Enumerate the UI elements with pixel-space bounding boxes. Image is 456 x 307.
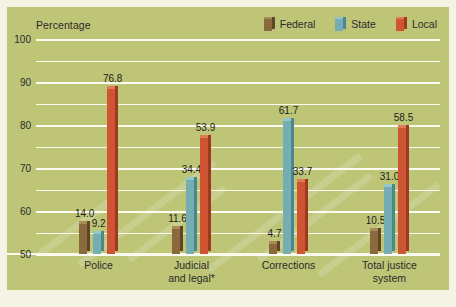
bar-value-label: 9.2 bbox=[92, 218, 106, 229]
bar-group: 11.634.453.9 bbox=[172, 39, 211, 254]
bar-local[interactable]: 76.8 bbox=[107, 89, 118, 254]
gridline: 0 bbox=[36, 254, 440, 256]
bar-federal[interactable]: 11.6 bbox=[172, 229, 183, 254]
legend-label-federal: Federal bbox=[280, 18, 316, 30]
legend-swatch-federal-icon bbox=[264, 17, 275, 31]
y-axis-tick-label: 60 bbox=[20, 206, 31, 217]
x-axis-category-label: Total justicesystem bbox=[330, 259, 450, 284]
bar-group: 14.09.276.8 bbox=[79, 39, 118, 254]
legend-label-state: State bbox=[351, 18, 376, 30]
y-axis-tick-label: 80 bbox=[20, 120, 31, 131]
bar-state[interactable]: 9.2 bbox=[93, 234, 104, 254]
chart-container: Percentage Federal State bbox=[0, 0, 456, 307]
bar-value-label: 33.7 bbox=[293, 166, 312, 177]
bar-value-label: 34.4 bbox=[182, 164, 201, 175]
y-axis-tick-label: 50 bbox=[20, 249, 31, 260]
bar-value-label: 10.5 bbox=[366, 215, 385, 226]
chart-legend: Federal State Local bbox=[264, 17, 437, 31]
bar-group: 4.761.733.7 bbox=[269, 39, 308, 254]
legend-item-state[interactable]: State bbox=[335, 17, 376, 31]
chart-panel: Percentage Federal State bbox=[7, 7, 449, 290]
bar-value-label: 58.5 bbox=[394, 112, 413, 123]
y-axis-tick-label: 100 bbox=[14, 34, 31, 45]
bar-state[interactable]: 61.7 bbox=[283, 121, 294, 254]
bar-federal[interactable]: 10.5 bbox=[370, 231, 381, 254]
bar-state[interactable]: 34.4 bbox=[186, 180, 197, 254]
bar-value-label: 4.7 bbox=[268, 228, 282, 239]
legend-swatch-local-icon bbox=[396, 17, 407, 31]
bar-value-label: 61.7 bbox=[279, 105, 298, 116]
bar-value-label: 76.8 bbox=[103, 73, 122, 84]
bar-state[interactable]: 31.0 bbox=[384, 187, 395, 254]
bar-value-label: 11.6 bbox=[168, 213, 187, 224]
bar-value-label: 31.0 bbox=[380, 171, 399, 182]
y-axis-tick-label: 70 bbox=[20, 163, 31, 174]
legend-swatch-state-icon bbox=[335, 17, 346, 31]
legend-item-local[interactable]: Local bbox=[396, 17, 437, 31]
bar-value-label: 53.9 bbox=[196, 122, 215, 133]
plot-area: 100908070605040302010014.09.276.811.634.… bbox=[36, 39, 440, 254]
bar-local[interactable]: 53.9 bbox=[200, 138, 211, 254]
bar-federal[interactable]: 4.7 bbox=[269, 244, 280, 254]
bar-federal[interactable]: 14.0 bbox=[79, 224, 90, 254]
bar-local[interactable]: 33.7 bbox=[297, 182, 308, 254]
bar-local[interactable]: 58.5 bbox=[398, 128, 409, 254]
axis-title: Percentage bbox=[36, 19, 91, 31]
y-axis-tick-label: 90 bbox=[20, 77, 31, 88]
legend-item-federal[interactable]: Federal bbox=[264, 17, 316, 31]
bar-group: 10.531.058.5 bbox=[370, 39, 409, 254]
legend-label-local: Local bbox=[412, 18, 437, 30]
